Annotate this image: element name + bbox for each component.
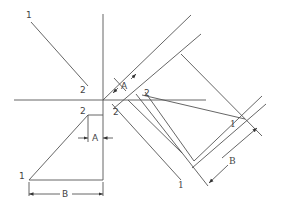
perp-line-short: [128, 100, 182, 153]
rot-dim-b-arrow-1: [222, 128, 257, 158]
diagram-canvas: 1 2 A B 2 1 A 2 2 B 1 1: [0, 0, 282, 212]
rot-dim-b-arrow-2: [209, 165, 228, 183]
label-point-1-top: 1: [26, 10, 32, 20]
perp-line-inner: [145, 92, 194, 161]
label-point-2-center: 2: [113, 107, 119, 117]
label-point-2-rotated: 2: [144, 88, 150, 98]
rot-dim-a-arrow-2: [131, 74, 136, 79]
triangle-hypotenuse: [29, 115, 88, 180]
label-point-1-rotated: 1: [230, 119, 236, 129]
label-point-1-triangle: 1: [19, 171, 25, 181]
label-point-2-triangle: 2: [80, 106, 86, 116]
rotated-line-second: [113, 34, 201, 109]
rotated-line-third: [194, 96, 262, 161]
label-point-2-top: 2: [80, 85, 86, 95]
rotated-segment: [142, 95, 245, 119]
label-point-1-bottom: 1: [178, 180, 184, 190]
original-line: [31, 22, 88, 86]
rot-dim-a-arrow-1: [113, 88, 118, 93]
label-a-rotated: A: [121, 81, 128, 91]
label-b-rotated: B: [229, 156, 236, 166]
label-b-triangle: B: [62, 189, 68, 199]
label-a-triangle: A: [92, 133, 99, 143]
perp-line-upper: [181, 54, 262, 136]
